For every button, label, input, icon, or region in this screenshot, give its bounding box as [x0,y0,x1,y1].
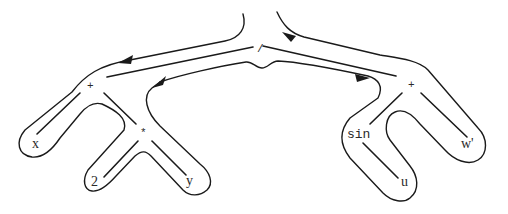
tree-edges [37,46,467,178]
node-u-label: u [401,174,408,189]
node-right-plus-label: + [408,79,415,91]
arrow-left-icon [118,55,133,64]
edge-plus-w [421,93,467,137]
edge-sin-u [363,143,398,178]
expression-tree-svg: / + + * x 2 y sin u w' [0,0,508,214]
edge-plus-times [104,93,136,124]
contour-left-outer [19,14,244,195]
arrow-up-right-icon [152,76,166,88]
node-w-prime-label: w' [461,136,474,151]
node-left-plus-label: + [87,80,94,92]
edge-plus-sin [370,93,402,124]
contour-middle [160,12,486,201]
diagram-canvas: / + + * x 2 y sin u w' [0,0,508,214]
node-y-label: y [186,173,193,188]
node-x-label: x [32,136,39,151]
contour-arrows [118,32,370,88]
node-two-label: 2 [91,174,98,189]
traversal-contour [19,12,485,201]
edge-plus-x [37,93,80,134]
node-times-label: * [140,127,147,139]
node-labels: / + + * x 2 y sin u w' [32,43,474,189]
node-sin-label: sin [347,127,370,142]
node-root-label: / [257,43,264,55]
